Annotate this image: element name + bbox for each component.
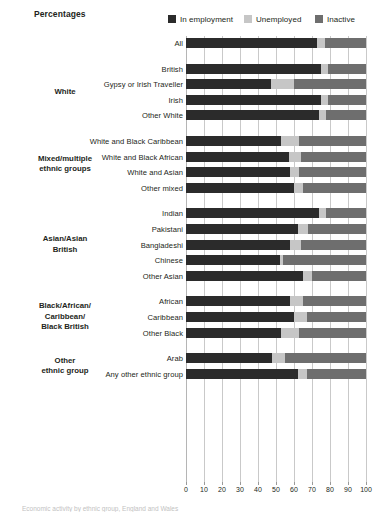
x-axis-tick bbox=[258, 482, 259, 485]
legend-swatch-icon-inactive bbox=[315, 15, 323, 23]
bar-row bbox=[186, 296, 366, 306]
bar-segment-inactive bbox=[283, 255, 366, 265]
bar-segment-unemployed bbox=[281, 136, 299, 146]
bar-segment-unemployed bbox=[290, 167, 299, 177]
bar-segment-inactive bbox=[328, 95, 366, 105]
x-axis-tick-label: 40 bbox=[254, 486, 262, 493]
bar-segment-in-employment bbox=[186, 224, 298, 234]
bar-row bbox=[186, 152, 366, 162]
bar-row bbox=[186, 224, 366, 234]
bar-row bbox=[186, 38, 366, 48]
bar-segment-inactive bbox=[299, 167, 366, 177]
x-axis-tick-label: 80 bbox=[326, 486, 334, 493]
bar-segment-in-employment bbox=[186, 312, 294, 322]
bar-segment-in-employment bbox=[186, 208, 319, 218]
bar-segment-unemployed bbox=[321, 95, 328, 105]
category-label: White and Asian bbox=[8, 168, 183, 177]
bar-segment-in-employment bbox=[186, 255, 280, 265]
x-axis-tick bbox=[276, 482, 277, 485]
bar-row bbox=[186, 240, 366, 250]
bar-segment-unemployed bbox=[281, 328, 299, 338]
legend-item-inactive: Inactive bbox=[315, 8, 355, 20]
bar-segment-inactive bbox=[312, 271, 366, 281]
category-label: Irish bbox=[8, 96, 183, 105]
bar-rows bbox=[186, 36, 366, 482]
category-label: White and Black Caribbean bbox=[8, 137, 183, 146]
bar-segment-unemployed bbox=[272, 353, 285, 363]
category-label: Caribbean bbox=[8, 313, 183, 322]
x-axis-tick bbox=[204, 482, 205, 485]
x-axis-tick bbox=[294, 482, 295, 485]
category-label: Chinese bbox=[8, 256, 183, 265]
bar-segment-in-employment bbox=[186, 95, 321, 105]
bar-segment-unemployed bbox=[298, 369, 307, 379]
bar-row bbox=[186, 369, 366, 379]
bar-segment-in-employment bbox=[186, 353, 272, 363]
category-label-column: AllBritishGypsy or Irish TravellerIrishO… bbox=[4, 36, 183, 482]
bar-segment-inactive bbox=[299, 328, 366, 338]
bar-segment-inactive bbox=[303, 296, 366, 306]
x-axis-tick-label: 50 bbox=[272, 486, 280, 493]
bar-segment-in-employment bbox=[186, 64, 321, 74]
category-label: African bbox=[8, 297, 183, 306]
category-label: Other Asian bbox=[8, 272, 183, 281]
bar-segment-inactive bbox=[328, 64, 366, 74]
bar-segment-in-employment bbox=[186, 369, 298, 379]
bar-segment-inactive bbox=[326, 208, 366, 218]
chart-root: Percentages In employment Unemployed Ina… bbox=[0, 0, 377, 514]
legend-label-in-employment: In employment bbox=[180, 15, 233, 24]
bar-segment-inactive bbox=[303, 183, 366, 193]
category-label: Indian bbox=[8, 209, 183, 218]
x-axis-tick-label: 70 bbox=[308, 486, 316, 493]
bar-row bbox=[186, 312, 366, 322]
bar-segment-unemployed bbox=[321, 64, 328, 74]
bar-segment-in-employment bbox=[186, 240, 290, 250]
chart-header: Percentages In employment Unemployed Ina… bbox=[0, 0, 377, 30]
x-axis-tick bbox=[240, 482, 241, 485]
category-label: Gypsy or Irish Traveller bbox=[8, 80, 183, 89]
bar-segment-inactive bbox=[285, 353, 366, 363]
bar-segment-in-employment bbox=[186, 271, 303, 281]
category-label: British bbox=[8, 65, 183, 74]
category-label: Pakistani bbox=[8, 225, 183, 234]
legend-swatch-icon-in-employment bbox=[168, 15, 176, 23]
bar-segment-inactive bbox=[325, 38, 366, 48]
legend-item-in-employment: In employment bbox=[168, 8, 233, 20]
plot-area bbox=[186, 36, 366, 482]
bar-segment-inactive bbox=[294, 79, 366, 89]
bar-row bbox=[186, 353, 366, 363]
category-label: White and Black African bbox=[8, 153, 183, 162]
bar-segment-in-employment bbox=[186, 328, 281, 338]
bar-segment-in-employment bbox=[186, 296, 290, 306]
category-label: Other Black bbox=[8, 329, 183, 338]
bar-row bbox=[186, 79, 366, 89]
x-axis-tick-label: 60 bbox=[290, 486, 298, 493]
bar-segment-inactive bbox=[307, 369, 366, 379]
category-label: Arab bbox=[8, 354, 183, 363]
x-axis-tick-label: 30 bbox=[236, 486, 244, 493]
category-label: All bbox=[8, 39, 183, 48]
bar-row bbox=[186, 64, 366, 74]
bar-segment-in-employment bbox=[186, 152, 289, 162]
bar-segment-in-employment bbox=[186, 136, 281, 146]
category-label: Bangladeshi bbox=[8, 241, 183, 250]
bar-row bbox=[186, 208, 366, 218]
bar-segment-in-employment bbox=[186, 183, 294, 193]
bar-segment-unemployed bbox=[289, 152, 302, 162]
bar-row bbox=[186, 136, 366, 146]
x-axis-tick bbox=[312, 482, 313, 485]
legend-label-inactive: Inactive bbox=[327, 15, 355, 24]
x-axis-tick bbox=[186, 482, 187, 485]
x-axis-tick bbox=[222, 482, 223, 485]
bar-row bbox=[186, 110, 366, 120]
bar-segment-unemployed bbox=[294, 183, 303, 193]
bar-segment-in-employment bbox=[186, 38, 317, 48]
x-axis-tick bbox=[366, 482, 367, 485]
bar-segment-inactive bbox=[301, 152, 366, 162]
bar-segment-in-employment bbox=[186, 79, 271, 89]
x-axis-tick-label: 100 bbox=[360, 486, 372, 493]
bar-segment-unemployed bbox=[290, 296, 303, 306]
bar-segment-inactive bbox=[301, 240, 366, 250]
x-axis-tick-label: 10 bbox=[200, 486, 208, 493]
category-label: Other mixed bbox=[8, 184, 183, 193]
